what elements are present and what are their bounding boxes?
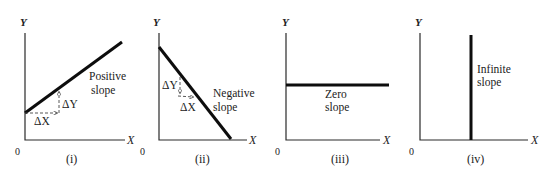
origin-label: 0 (409, 146, 414, 157)
slope-label-line2: slope (213, 101, 237, 114)
axes (420, 33, 528, 140)
slope-label-line2: slope (91, 84, 115, 97)
panel-caption: (i) (66, 152, 77, 166)
origin-label: 0 (275, 146, 280, 157)
y-axis-label: Y (415, 16, 423, 28)
panel-positive-slope: Y X 0 ΔY ΔX Positive slope (i) (15, 16, 135, 166)
slope-label-line1: Negative (213, 87, 255, 100)
origin-label: 0 (15, 146, 20, 157)
x-axis-label: X (530, 133, 539, 147)
delta-x-label: ΔX (34, 115, 50, 127)
slope-diagram: Y X 0 ΔY ΔX Positive slope (i) Y X 0 ΔY … (0, 0, 554, 176)
panel-caption: (ii) (195, 152, 210, 166)
x-axis-label: X (248, 133, 257, 147)
panel-infinite-slope: Y X 0 Infinite slope (iv) (409, 16, 539, 166)
panel-caption: (iii) (331, 152, 349, 166)
y-axis-label: Y (20, 16, 28, 28)
slope-label-line2: slope (325, 101, 349, 114)
origin-label: 0 (140, 146, 145, 157)
y-axis-label: Y (153, 16, 161, 28)
panel-caption: (iv) (467, 152, 484, 166)
slope-label-line2: slope (477, 76, 501, 89)
slope-label-line1: Positive (89, 70, 126, 82)
slope-label-line1: Zero (325, 88, 347, 100)
x-axis-label: X (126, 133, 135, 147)
panel-zero-slope: Y X 0 Zero slope (iii) (275, 16, 391, 166)
x-axis-label: X (382, 133, 391, 147)
slope-label-line1: Infinite (477, 63, 511, 75)
panel-negative-slope: Y X 0 ΔY ΔX Negative slope (ii) (140, 16, 257, 166)
delta-y-label: ΔY (162, 79, 178, 91)
y-axis-label: Y (282, 16, 290, 28)
delta-x-arrow (178, 96, 193, 97)
delta-y-label: ΔY (62, 98, 78, 110)
delta-x-label: ΔX (180, 101, 196, 113)
